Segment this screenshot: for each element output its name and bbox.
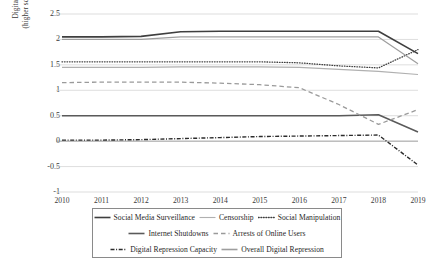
legend-line-swatch-icon bbox=[128, 230, 145, 237]
legend-line-swatch-icon bbox=[221, 246, 238, 253]
chart-legend: Social Media Surveillance Censorship Soc… bbox=[92, 208, 342, 258]
legend-item[interactable]: Overall Digital Repression bbox=[221, 245, 324, 254]
series-line bbox=[62, 82, 418, 124]
legend-line-swatch-icon bbox=[94, 214, 111, 221]
legend-item[interactable]: Social Manipulation bbox=[258, 213, 341, 222]
legend-row: Digital Repression Capacity Overall Digi… bbox=[93, 242, 341, 258]
series-line bbox=[62, 37, 418, 64]
legend-item-label: Internet Shutdowns bbox=[148, 229, 208, 238]
digital-repression-line-chart: Digital Repression Scores (higher score … bbox=[0, 0, 429, 276]
legend-item-label: Digital Repression Capacity bbox=[130, 245, 217, 254]
legend-line-swatch-icon bbox=[213, 230, 230, 237]
legend-line-swatch-icon bbox=[199, 214, 216, 221]
legend-item-label: Social Media Surveillance bbox=[114, 213, 195, 222]
legend-line-swatch-icon bbox=[110, 246, 127, 253]
legend-item-label: Arrests of Online Users bbox=[233, 229, 306, 238]
series-line bbox=[62, 135, 418, 165]
legend-item[interactable]: Censorship bbox=[199, 213, 254, 222]
legend-item[interactable]: Social Media Surveillance bbox=[94, 213, 195, 222]
legend-row: Internet Shutdowns Arrests of Online Use… bbox=[93, 225, 341, 241]
series-line bbox=[62, 31, 418, 53]
legend-item[interactable]: Arrests of Online Users bbox=[213, 229, 306, 238]
legend-item-label: Overall Digital Repression bbox=[241, 245, 324, 254]
legend-item-label: Social Manipulation bbox=[278, 213, 341, 222]
legend-row: Social Media Surveillance Censorship Soc… bbox=[93, 209, 341, 225]
series-line bbox=[62, 67, 418, 75]
legend-item-label: Censorship bbox=[219, 213, 254, 222]
legend-item[interactable]: Digital Repression Capacity bbox=[110, 245, 217, 254]
legend-line-swatch-icon bbox=[258, 214, 275, 221]
legend-item[interactable]: Internet Shutdowns bbox=[128, 229, 208, 238]
